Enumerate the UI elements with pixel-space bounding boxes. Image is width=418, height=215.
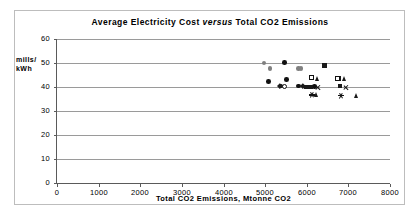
x-tick-mark (140, 184, 141, 187)
data-point-black-squares (338, 84, 343, 89)
x-tick-mark (57, 184, 58, 187)
x-tick-mark (348, 184, 349, 187)
x-tick-mark (265, 184, 266, 187)
chart-title-before: Average Electricity Cost (92, 17, 203, 27)
y-tick-label: 30 (20, 106, 50, 115)
chart-title-italic: versus (203, 17, 233, 27)
x-axis-title: Total CO2 Emissions, Mtonne CO2 (57, 194, 390, 203)
data-point-stars (339, 93, 344, 98)
data-point-x-crosses (343, 85, 348, 90)
plot-area (57, 39, 390, 183)
y-tick-label: 40 (20, 82, 50, 91)
y-tick-label: 50 (20, 58, 50, 67)
data-point-black-circles (282, 60, 287, 65)
data-point-black-squares (322, 63, 327, 68)
data-point-stars (309, 93, 314, 98)
chart-title-after: Total CO2 Emissions (233, 17, 329, 27)
data-point-gray-circles (299, 66, 304, 71)
data-point-black-circles (284, 77, 289, 82)
data-point-black-circles (266, 79, 271, 84)
y-tick-label: 60 (20, 34, 50, 43)
chart-root: Average Electricity Cost versus Total CO… (0, 0, 418, 215)
y-tick-label: 20 (20, 130, 50, 139)
y-tick-label: 10 (20, 154, 50, 163)
x-tick-mark (99, 184, 100, 187)
data-point-open-squares (309, 75, 314, 80)
data-point-triangles (342, 76, 346, 81)
y-tick-label: 0 (20, 178, 50, 187)
x-axis-line (56, 183, 390, 184)
x-tick-mark (390, 184, 391, 187)
data-point-x-crosses (315, 85, 320, 90)
x-tick-mark (182, 184, 183, 187)
data-point-triangles (314, 92, 318, 97)
chart-title: Average Electricity Cost versus Total CO… (60, 17, 360, 27)
data-point-triangles (354, 93, 358, 98)
data-point-triangles (315, 76, 319, 81)
data-point-black-squares (309, 85, 314, 90)
x-tick-mark (307, 184, 308, 187)
x-tick-mark (224, 184, 225, 187)
data-point-open-squares (335, 76, 340, 81)
